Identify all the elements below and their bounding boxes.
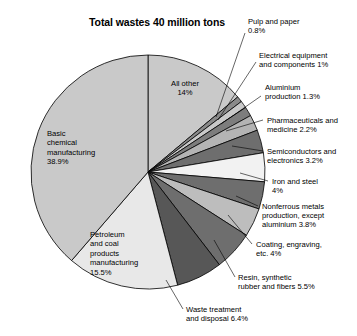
- slice-label-pharmaceuticals: Pharmaceuticals and medicine 2.2%: [267, 116, 357, 134]
- slice-label-all-other: All other 14%: [155, 79, 215, 98]
- slice-label-petroleum-coal: Petroleum and coal products manufacturin…: [90, 230, 170, 277]
- slice-label-electrical-equipment: Electrical equipment and components 1%: [259, 51, 357, 69]
- slice-label-pulp-and-paper: Pulp and paper 0.8%: [248, 17, 353, 35]
- slice-label-resin-synthetic: Resin, synthetic rubber and fibers 5.5%: [238, 273, 357, 291]
- slice-label-waste-treatment: Waste treatment and disposal 6.4%: [186, 305, 296, 323]
- slice-label-aluminium-production: Aluminium production 1.3%: [265, 83, 357, 101]
- slice-label-coating-engraving: Coating, engraving, etc. 4%: [256, 240, 357, 258]
- slice-label-semiconductors: Semiconductors and electronics 3.2%: [267, 147, 357, 165]
- slice-label-basic-chemical: Basic chemical manufacturing 38.9%: [47, 129, 125, 167]
- slice-label-iron-and-steel: Iron and steel 4%: [272, 177, 357, 195]
- slice-label-nonferrous-metals: Nonferrous metals production, except alu…: [262, 202, 357, 230]
- pie-chart-figure: Total wastes 40 million tons All other 1…: [0, 0, 357, 336]
